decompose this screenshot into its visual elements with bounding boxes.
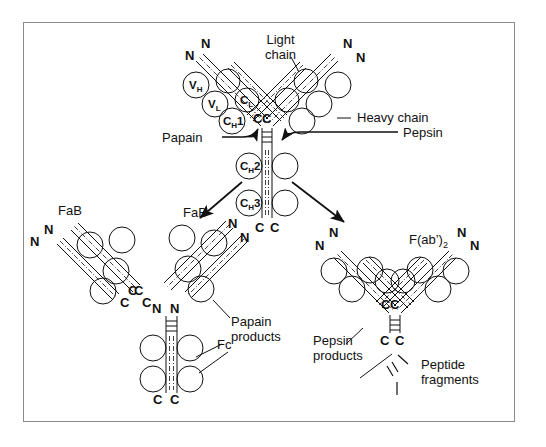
peptide-fragments-line-1: Peptide: [421, 357, 479, 372]
terminus-c-fab2-tail-left: C: [380, 333, 389, 348]
pepsin-products-line-1: Pepsin: [313, 333, 363, 348]
domain-label-ch2: CH2: [240, 160, 261, 175]
terminus-n-intact-left-outer: N: [185, 48, 194, 63]
fragment-label-fab-middle: FaB: [183, 205, 207, 220]
terminus-n-fab2-right-outer: N: [470, 238, 479, 253]
annotation-light-chain: Light chain: [265, 32, 296, 62]
terminus-n-fab2-left-inner: N: [315, 238, 324, 253]
terminus-n-fab2-left-outer: N: [329, 225, 338, 240]
papain-products-leader-bottom: [199, 352, 228, 373]
fc-fragment: [140, 316, 203, 393]
papain-products-line-1: Papain: [231, 314, 281, 329]
domain-label-cl: CL: [240, 94, 253, 109]
intact-hinge-stems: [262, 128, 272, 218]
terminus-c-fc-left: C: [153, 392, 162, 407]
terminus-n-fc-left: N: [152, 301, 161, 316]
terminus-n-intact-left-inner: N: [201, 36, 210, 51]
intact-right-heavy-arm: [266, 54, 351, 126]
figure-canvas: N N N N C C C C VL VH CL CH1 CH2 CH3 Lig…: [0, 0, 546, 447]
terminus-c-fab-mid-upper: C: [128, 283, 137, 298]
fab-middle-fragment: [164, 221, 247, 302]
terminus-n-fc-right: N: [170, 301, 179, 316]
annotation-heavy-chain: Heavy chain: [357, 110, 429, 125]
fragment-label-fab-left: FaB: [58, 203, 82, 218]
terminus-c-fab2-tail-right: C: [395, 333, 404, 348]
fab2-fragment: [321, 251, 469, 333]
terminus-c-fab2-hinge-left: C: [381, 297, 390, 312]
annotation-pepsin: Pepsin: [403, 125, 443, 140]
terminus-c-fab2-hinge-right: C: [390, 297, 399, 312]
pepsin-product-arrow: [292, 182, 344, 222]
peptide-fragments-line-2: fragments: [421, 372, 479, 387]
papain-products-leader-top: [213, 300, 230, 318]
terminus-n-fab-mid-lower: N: [240, 230, 249, 245]
pepsin-products-line-2: products: [313, 348, 363, 363]
terminus-c-intact-tail-right: C: [270, 220, 279, 235]
peptide-fragments-marks: [387, 355, 408, 395]
pepsin-arrow: [282, 132, 398, 140]
fragment-label-fab2: F(ab’)2: [409, 232, 448, 250]
terminus-n-fab-left-inner: N: [30, 234, 39, 249]
terminus-c-fab-mid-lower: C: [142, 295, 151, 310]
terminus-n-fab-mid-upper: N: [228, 216, 237, 231]
terminus-n-intact-right-inner: N: [343, 36, 352, 51]
annotation-peptide-fragments: Peptide fragments: [421, 357, 479, 387]
terminus-c-intact-hinge-right: C: [262, 111, 271, 126]
annotation-papain: Papain: [162, 130, 202, 145]
domain-label-vl: VL: [208, 98, 221, 113]
light-chain-line-2: chain: [265, 47, 296, 62]
terminus-n-fab-left-outer: N: [44, 222, 53, 237]
annotation-papain-products: Papain products: [231, 314, 281, 344]
domain-label-ch1: CH1: [223, 115, 244, 130]
terminus-c-intact-hinge-left: C: [253, 111, 262, 126]
intact-ch1-right: [289, 108, 315, 134]
papain-products-line-2: products: [231, 329, 281, 344]
light-chain-line-1: Light: [265, 32, 296, 47]
terminus-c-fc-right: C: [170, 392, 179, 407]
annotation-pepsin-products: Pepsin products: [313, 333, 363, 363]
terminus-n-fab2-right-inner: N: [457, 225, 466, 240]
domain-label-ch3: CH3: [240, 197, 261, 212]
fragment-label-fc: Fc: [217, 337, 231, 352]
terminus-n-intact-right-outer: N: [356, 50, 365, 65]
domain-label-vh: VH: [189, 79, 202, 94]
terminus-c-intact-tail-left: C: [255, 220, 264, 235]
